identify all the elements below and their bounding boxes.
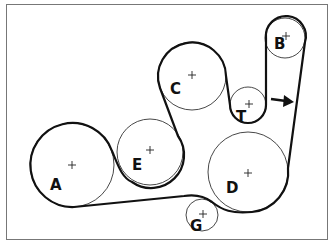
- pulleys: [30, 18, 305, 231]
- label-t: T: [236, 108, 247, 126]
- center-t-icon: [245, 100, 253, 108]
- serpentine-belt: [30, 16, 305, 212]
- label-g: G: [190, 217, 202, 235]
- label-b: B: [274, 35, 285, 53]
- direction-arrow-icon: [271, 95, 294, 107]
- center-e-icon: [146, 146, 154, 154]
- pulley-center-marks: [68, 32, 290, 218]
- label-e: E: [132, 156, 142, 174]
- center-d-icon: [244, 169, 252, 177]
- belt-diagram: A E C T B D G: [0, 0, 334, 246]
- label-c: C: [170, 80, 181, 98]
- label-d: D: [226, 179, 238, 197]
- label-a: A: [50, 176, 62, 194]
- center-c-icon: [188, 71, 196, 79]
- center-a-icon: [68, 161, 76, 169]
